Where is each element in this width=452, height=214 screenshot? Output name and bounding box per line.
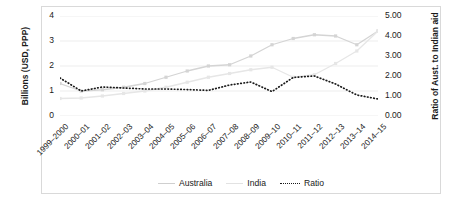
- y-axis-left-tick-label: 0: [36, 110, 54, 120]
- y-axis-right-tick-label: 2.00: [385, 70, 402, 80]
- y-axis-right-tick-label: 4.00: [385, 30, 402, 40]
- series-marker: [186, 69, 189, 72]
- series-marker: [292, 37, 295, 40]
- y-axis-right-title: Ratio of Aust. to Indian aid: [430, 6, 440, 126]
- series-marker: [355, 43, 358, 46]
- y-axis-right-tick-label: 5.00: [385, 10, 402, 20]
- series-marker: [270, 66, 273, 69]
- y-axis-left-tick-label: 3: [36, 35, 54, 45]
- y-axis-left-tick-label: 2: [36, 60, 54, 70]
- chart-lines: [60, 16, 378, 116]
- legend-swatch-icon: [158, 183, 175, 184]
- series-marker: [270, 43, 273, 46]
- series-marker: [355, 49, 358, 52]
- legend-swatch-icon: [280, 183, 300, 184]
- series-marker: [164, 76, 167, 79]
- series-marker: [249, 68, 252, 71]
- y-axis-left-tick-label: 1: [36, 85, 54, 95]
- series-marker: [228, 72, 231, 75]
- series-marker: [60, 97, 62, 100]
- y-axis-right-tick-label: 0.00: [385, 110, 402, 120]
- legend-swatch-icon: [226, 183, 243, 184]
- series-marker: [207, 64, 210, 67]
- legend-item-india[interactable]: India: [226, 178, 266, 188]
- y-axis-right-tick-label: 3.00: [385, 50, 402, 60]
- series-marker: [334, 62, 337, 65]
- series-marker: [249, 54, 252, 57]
- y-axis-left-title: Billions (USD, PPP): [20, 16, 30, 116]
- series-marker: [60, 82, 62, 85]
- series-marker: [334, 34, 337, 37]
- legend-item-australia[interactable]: Australia: [158, 178, 212, 188]
- series-marker: [313, 33, 316, 36]
- series-marker: [376, 29, 378, 32]
- y-axis-right-tick-label: 1.00: [385, 90, 402, 100]
- series-marker: [228, 63, 231, 66]
- series-marker: [207, 76, 210, 79]
- chart-legend: AustraliaIndiaRatio: [41, 178, 441, 188]
- series-marker: [122, 92, 125, 95]
- legend-label: Ratio: [304, 178, 324, 188]
- series-marker: [80, 96, 83, 99]
- chart-plot-area: [60, 16, 378, 116]
- y-axis-left-tick-label: 4: [36, 10, 54, 20]
- series-marker: [143, 89, 146, 92]
- legend-label: Australia: [179, 178, 212, 188]
- legend-item-ratio[interactable]: Ratio: [280, 178, 324, 188]
- series-marker: [101, 88, 104, 91]
- series-marker: [143, 82, 146, 85]
- series-marker: [186, 81, 189, 84]
- legend-label: India: [247, 178, 266, 188]
- chart-figure: Billions (USD, PPP) Ratio of Aust. to In…: [0, 0, 452, 214]
- series-marker: [101, 94, 104, 97]
